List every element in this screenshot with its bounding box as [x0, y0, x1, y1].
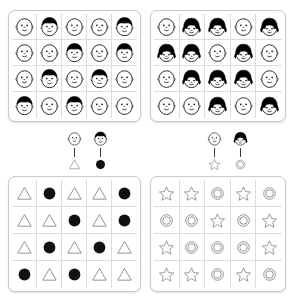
triangle-outline-icon — [91, 212, 108, 229]
grid-cell-circle — [154, 207, 180, 234]
legend-mapping-face-plain-to-triangle — [66, 130, 83, 171]
face-bob-icon — [206, 67, 229, 90]
face-plain-icon — [113, 94, 136, 117]
triangle-outline-icon — [41, 266, 58, 283]
face-hair-icon — [92, 130, 109, 147]
grid-cell-face-plain — [256, 66, 282, 92]
face-plain-icon — [258, 67, 281, 90]
triangle-outline-icon — [16, 239, 33, 256]
double-circle-icon — [209, 266, 226, 283]
grid-cell-star — [256, 207, 282, 234]
grid-cell-triangle — [87, 180, 112, 207]
legend-mapping-face-hair-to-circle — [92, 130, 109, 171]
grid-cell-face-bob — [205, 66, 231, 92]
face-bob-icon — [258, 94, 281, 117]
face-plain-icon — [232, 15, 255, 38]
face-hair-icon — [63, 94, 86, 117]
star-outline-icon — [209, 212, 226, 229]
faces-grid-right — [154, 14, 282, 118]
legend-right — [206, 130, 249, 171]
face-plain-icon — [13, 15, 36, 38]
face-bob-icon — [206, 94, 229, 117]
circle-filled-icon — [66, 266, 83, 283]
legend-face — [232, 130, 249, 147]
grid-cell-face-plain — [87, 14, 112, 40]
grid-cell-circle — [205, 234, 231, 261]
face-plain-icon — [113, 67, 136, 90]
grid-cell-triangle — [12, 207, 37, 234]
grid-cell-triangle — [37, 207, 62, 234]
grid-cell-circle — [12, 261, 37, 288]
grid-cell-face-plain — [87, 40, 112, 66]
grid-cell-triangle — [62, 234, 87, 261]
triangle-outline-icon — [66, 239, 83, 256]
double-circle-icon — [209, 239, 226, 256]
grid-cell-circle — [231, 207, 257, 234]
star-outline-icon — [235, 266, 252, 283]
grid-cell-face-bob — [231, 66, 257, 92]
grid-cell-star — [180, 180, 206, 207]
grid-cell-circle — [180, 234, 206, 261]
face-hair-icon — [113, 15, 136, 38]
legend-left — [66, 130, 109, 171]
face-hair-icon — [88, 67, 111, 90]
grid-cell-circle — [37, 234, 62, 261]
grid-cell-star — [205, 207, 231, 234]
grid-cell-face-plain — [256, 40, 282, 66]
legend-mapping-face-plain-to-star — [206, 130, 223, 171]
grid-cell-triangle — [12, 234, 37, 261]
grid-cell-triangle — [37, 261, 62, 288]
circle-filled-icon — [41, 185, 58, 202]
face-bob-icon — [180, 15, 203, 38]
grid-cell-face-plain — [12, 14, 37, 40]
circle-filled-icon — [16, 266, 33, 283]
legend-shape — [94, 158, 107, 171]
faces-grid-left-panel — [8, 10, 141, 122]
face-bob-icon — [232, 130, 249, 147]
star-outline-icon — [158, 239, 175, 256]
triangle-outline-icon — [116, 266, 133, 283]
face-plain-icon — [88, 41, 111, 64]
shapes-grid-right-panel — [150, 176, 286, 292]
grid-cell-face-bob — [256, 14, 282, 40]
face-plain-icon — [63, 67, 86, 90]
face-plain-icon — [232, 94, 255, 117]
grid-cell-face-plain — [231, 92, 257, 118]
grid-cell-face-hair — [37, 66, 62, 92]
star-outline-icon — [261, 212, 278, 229]
grid-cell-face-plain — [37, 40, 62, 66]
grid-cell-face-plain — [154, 92, 180, 118]
legend-shape — [68, 158, 81, 171]
legend-face — [206, 130, 223, 147]
legend-shape — [234, 158, 247, 171]
grid-cell-face-plain — [112, 92, 137, 118]
grid-cell-face-bob — [180, 14, 206, 40]
shapes-grid-right — [154, 180, 282, 288]
circle-filled-icon — [91, 239, 108, 256]
grid-cell-star — [231, 180, 257, 207]
circle-filled-icon — [116, 212, 133, 229]
grid-cell-star — [231, 261, 257, 288]
face-bob-icon — [180, 41, 203, 64]
triangle-outline-icon — [68, 158, 81, 171]
grid-cell-circle — [231, 234, 257, 261]
grid-cell-circle — [62, 207, 87, 234]
double-circle-icon — [261, 266, 278, 283]
grid-cell-triangle — [112, 261, 137, 288]
circle-filled-icon — [116, 185, 133, 202]
grid-cell-triangle — [62, 180, 87, 207]
grid-cell-face-plain — [62, 14, 87, 40]
triangle-outline-icon — [66, 185, 83, 202]
face-hair-icon — [113, 41, 136, 64]
grid-cell-star — [256, 234, 282, 261]
double-circle-icon — [261, 185, 278, 202]
grid-cell-circle — [87, 234, 112, 261]
legend-mapping-face-bob-to-circle — [232, 130, 249, 171]
face-plain-icon — [13, 67, 36, 90]
grid-cell-circle — [112, 180, 137, 207]
star-outline-icon — [158, 266, 175, 283]
star-outline-icon — [158, 185, 175, 202]
face-bob-icon — [180, 67, 203, 90]
triangle-outline-icon — [91, 266, 108, 283]
legend-connector-line — [240, 148, 241, 157]
